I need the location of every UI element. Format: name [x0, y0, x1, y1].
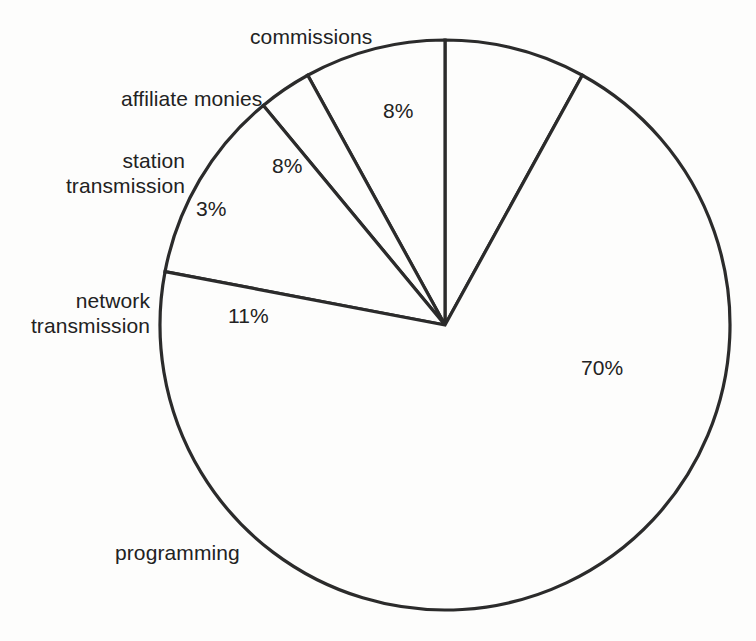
slice-value-network-transmission: 11% [228, 303, 269, 328]
slice-label-station-transmission-line2: transmission [0, 173, 185, 198]
slice-value-station-transmission: 3% [196, 196, 227, 221]
slice-label-programming: programming [115, 540, 240, 565]
slice-label-network-transmission-line2: transmission [0, 313, 150, 338]
slice-value-programming: 70% [581, 355, 623, 380]
pie-chart: commissions affiliate monies station tra… [0, 0, 756, 641]
slice-label-station-transmission: station transmission [0, 148, 185, 198]
slice-label-commissions: commissions [250, 24, 372, 49]
slice-value-affiliate-monies: 8% [272, 153, 303, 178]
slice-value-commissions: 8% [383, 98, 414, 123]
slice-label-affiliate-monies: affiliate monies [121, 86, 262, 111]
slice-label-network-transmission: network transmission [0, 288, 150, 338]
slice-label-network-transmission-line1: network [0, 288, 150, 313]
slice-label-station-transmission-line1: station [0, 148, 185, 173]
